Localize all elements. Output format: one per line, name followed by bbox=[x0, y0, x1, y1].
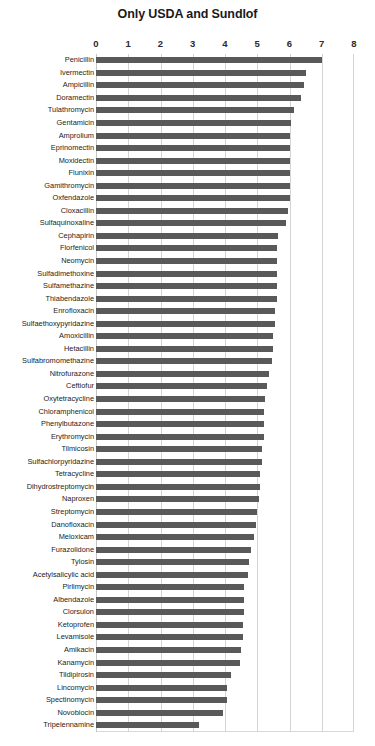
bar-track bbox=[96, 506, 354, 519]
bar bbox=[96, 534, 254, 540]
bar bbox=[96, 634, 243, 640]
bar bbox=[96, 421, 264, 427]
bar-row: Acetylsalicylic acid bbox=[0, 568, 375, 581]
bar bbox=[96, 133, 290, 139]
bar-row: Amoxicillin bbox=[0, 330, 375, 343]
bar bbox=[96, 522, 256, 528]
category-label: Tetracycline bbox=[55, 470, 94, 478]
category-label: Phenylbutazone bbox=[41, 420, 94, 428]
bar-row: Sulfamethazine bbox=[0, 280, 375, 293]
bar bbox=[96, 321, 275, 327]
x-tick-label: 1 bbox=[126, 38, 131, 49]
bar-row: Clorsulon bbox=[0, 606, 375, 619]
category-label: Gamithromycin bbox=[44, 182, 94, 190]
category-label: Sulfaquinoxaline bbox=[40, 219, 94, 227]
bar-row: Tilmicosin bbox=[0, 443, 375, 456]
bar bbox=[96, 233, 278, 239]
bar-row: Meloxicam bbox=[0, 531, 375, 544]
category-label: Meloxicam bbox=[59, 533, 94, 541]
category-label: Spectinomycin bbox=[46, 696, 94, 704]
bar-track bbox=[96, 217, 354, 230]
x-tick-label: 4 bbox=[222, 38, 227, 49]
category-label: Novobiocin bbox=[57, 709, 94, 717]
bar-row: Cloxacillin bbox=[0, 205, 375, 218]
bar bbox=[96, 396, 265, 402]
bar-track bbox=[96, 581, 354, 594]
x-tick-label: 8 bbox=[351, 38, 356, 49]
bar-track bbox=[96, 418, 354, 431]
bar-track bbox=[96, 393, 354, 406]
bar-row: Amprolium bbox=[0, 129, 375, 142]
bar-track bbox=[96, 405, 354, 418]
bar bbox=[96, 434, 264, 440]
category-label: Neomycin bbox=[61, 257, 94, 265]
bar-row: Erythromycin bbox=[0, 430, 375, 443]
bar-row: Thiabendazole bbox=[0, 292, 375, 305]
bar bbox=[96, 82, 304, 88]
x-tick-label: 7 bbox=[319, 38, 324, 49]
bar-row: Sulfaquinoxaline bbox=[0, 217, 375, 230]
bar bbox=[96, 371, 269, 377]
bar bbox=[96, 145, 290, 151]
bar bbox=[96, 383, 267, 389]
bar-row: Sulfaethoxypyridazine bbox=[0, 317, 375, 330]
bar-row: Florfenicol bbox=[0, 242, 375, 255]
category-label: Tilmicosin bbox=[61, 445, 94, 453]
bar-track bbox=[96, 79, 354, 92]
category-label: Oxfendazole bbox=[53, 194, 95, 202]
bar bbox=[96, 459, 262, 465]
bar-track bbox=[96, 531, 354, 544]
bar bbox=[96, 283, 277, 289]
bar bbox=[96, 333, 273, 339]
bar-track bbox=[96, 456, 354, 469]
bar-track bbox=[96, 292, 354, 305]
bar-track bbox=[96, 669, 354, 682]
bar-row: Kanamycin bbox=[0, 656, 375, 669]
bar-row: Ampicillin bbox=[0, 79, 375, 92]
bar-track bbox=[96, 317, 354, 330]
category-label: Sulfachlorpyridazine bbox=[27, 458, 94, 466]
bar-track bbox=[96, 556, 354, 569]
bar-row: Novobiocin bbox=[0, 706, 375, 719]
category-label: Enrofloxacin bbox=[53, 307, 94, 315]
bar-track bbox=[96, 468, 354, 481]
category-label: Gentamicin bbox=[57, 119, 94, 127]
bar-track bbox=[96, 594, 354, 607]
bar-row: Ketoprofen bbox=[0, 619, 375, 632]
category-label: Flunixin bbox=[69, 169, 94, 177]
bar bbox=[96, 70, 306, 76]
chart-title: Only USDA and Sundlof bbox=[0, 7, 375, 21]
bar-track bbox=[96, 179, 354, 192]
bar-track bbox=[96, 644, 354, 657]
bar-track bbox=[96, 242, 354, 255]
bar-row: Lincomycin bbox=[0, 681, 375, 694]
bar-track bbox=[96, 330, 354, 343]
bar bbox=[96, 647, 241, 653]
category-label: Acetylsalicylic acid bbox=[33, 571, 94, 579]
bar-track bbox=[96, 192, 354, 205]
chart-container: Only USDA and Sundlof 012345678 Penicill… bbox=[0, 0, 375, 746]
category-label: Sulfadimethoxine bbox=[37, 270, 94, 278]
category-label: Lincomycin bbox=[57, 684, 94, 692]
bar-track bbox=[96, 205, 354, 218]
category-label: Sulfabromomethazine bbox=[22, 357, 94, 365]
bar bbox=[96, 710, 223, 716]
bar-row: Gamithromycin bbox=[0, 179, 375, 192]
bar-track bbox=[96, 430, 354, 443]
category-label: Florfenicol bbox=[60, 244, 94, 252]
bar bbox=[96, 685, 227, 691]
category-label: Cloxacillin bbox=[61, 207, 94, 215]
bar bbox=[96, 697, 227, 703]
bar-row: Amikacin bbox=[0, 644, 375, 657]
category-label: Danofloxacin bbox=[51, 521, 94, 529]
bar bbox=[96, 484, 260, 490]
category-label: Ampicillin bbox=[63, 81, 94, 89]
bar-track bbox=[96, 706, 354, 719]
bar bbox=[96, 509, 257, 515]
bar-row: Ivermectin bbox=[0, 67, 375, 80]
bar bbox=[96, 660, 240, 666]
bar bbox=[96, 245, 277, 251]
bar-row: Furazolidone bbox=[0, 543, 375, 556]
bar-track bbox=[96, 255, 354, 268]
bar-track bbox=[96, 92, 354, 105]
